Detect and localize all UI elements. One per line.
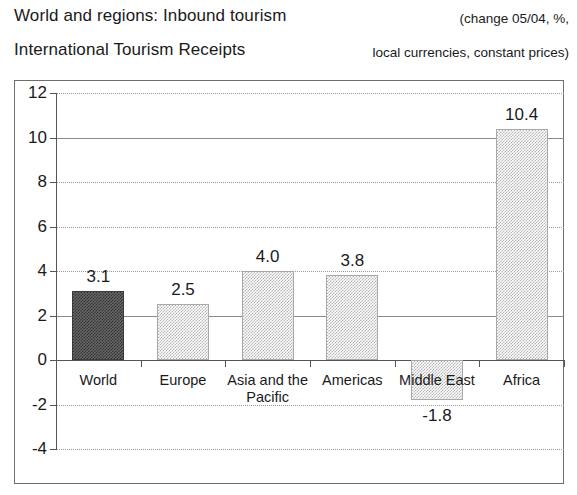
- gridline--4: [56, 449, 564, 450]
- plot-area: 121086420-2-4 3.12.54.03.8-1.810.4 World…: [56, 93, 564, 449]
- bar-europe[interactable]: [157, 304, 209, 360]
- bar-americas[interactable]: [326, 275, 378, 360]
- units-note-line2: local currencies, constant prices): [372, 45, 569, 60]
- category-label-world: World: [80, 372, 118, 389]
- units-note-line1: (change 05/04, %,: [459, 11, 569, 26]
- gridline-2: [56, 316, 564, 317]
- y-axis-label-8: 8: [38, 172, 47, 192]
- gridline-12: [56, 93, 564, 94]
- y-axis-label--2: -2: [32, 395, 47, 415]
- data-label-europe: 2.5: [171, 280, 195, 300]
- gridline-8: [56, 182, 564, 183]
- gridline--2: [56, 405, 564, 406]
- data-label-world: 3.1: [87, 267, 111, 287]
- y-tick--4: [50, 449, 57, 450]
- y-tick-4: [50, 271, 57, 272]
- y-axis-label--4: -4: [32, 439, 47, 459]
- chart-frame: 121086420-2-4 3.12.54.03.8-1.810.4 World…: [14, 80, 564, 484]
- y-axis-label-12: 12: [28, 83, 47, 103]
- gridline-10: [56, 138, 564, 139]
- y-axis-label-6: 6: [38, 217, 47, 237]
- y-tick-8: [50, 182, 57, 183]
- y-axis-label-4: 4: [38, 261, 47, 281]
- x-tick-4: [395, 360, 396, 367]
- category-label-americas: Americas: [322, 372, 382, 389]
- y-axis-label-0: 0: [38, 350, 47, 370]
- category-label-europe: Europe: [160, 372, 207, 389]
- data-label-africa: 10.4: [505, 105, 538, 125]
- y-tick-2: [50, 316, 57, 317]
- x-tick-1: [141, 360, 142, 367]
- bar-africa[interactable]: [496, 129, 548, 360]
- y-axis-label-10: 10: [28, 128, 47, 148]
- y-tick--2: [50, 405, 57, 406]
- data-label-asia-and-the-pacific: 4.0: [256, 247, 280, 267]
- bar-asia-and-the-pacific[interactable]: [242, 271, 294, 360]
- data-label-americas: 3.8: [341, 251, 365, 271]
- bar-world[interactable]: [72, 291, 124, 360]
- data-label-middle-east: -1.8: [422, 406, 451, 426]
- x-tick-5: [479, 360, 480, 367]
- x-tick-6: [564, 360, 565, 367]
- page-subtitle: International Tourism Receipts: [14, 40, 245, 60]
- y-tick-0: [50, 360, 57, 361]
- x-tick-2: [225, 360, 226, 367]
- category-label-middle-east: Middle East: [399, 372, 475, 389]
- chart-header: World and regions: Inbound tourism Inter…: [0, 0, 577, 78]
- gridline-4: [56, 271, 564, 272]
- category-label-africa: Africa: [503, 372, 540, 389]
- y-axis-label-2: 2: [38, 306, 47, 326]
- category-label-asia-and-the-pacific: Asia and thePacific: [227, 372, 308, 406]
- y-tick-6: [50, 227, 57, 228]
- y-tick-12: [50, 93, 57, 94]
- gridline-6: [56, 227, 564, 228]
- x-tick-3: [310, 360, 311, 367]
- y-tick-10: [50, 138, 57, 139]
- page-title: World and regions: Inbound tourism: [14, 6, 286, 26]
